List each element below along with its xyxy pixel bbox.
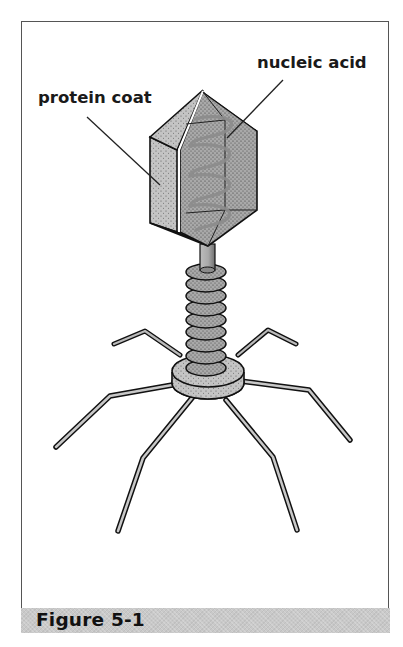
figure-caption-bar: Figure 5-1 (21, 608, 390, 633)
collar (200, 244, 215, 273)
figure-caption: Figure 5-1 (36, 609, 145, 630)
tail-sheath (186, 264, 226, 376)
tail-fiber-lower-right (226, 400, 297, 530)
label-protein-coat: protein coat (38, 88, 152, 107)
tail-fiber-upper-right (238, 330, 296, 355)
leader-line-protein-coat (87, 117, 160, 185)
tail-fiber-mid-right (240, 381, 350, 440)
label-nucleic-acid: nucleic acid (257, 53, 367, 72)
tail-fiber-upper-left (114, 331, 180, 355)
tail-fiber-lower-left (118, 398, 192, 531)
